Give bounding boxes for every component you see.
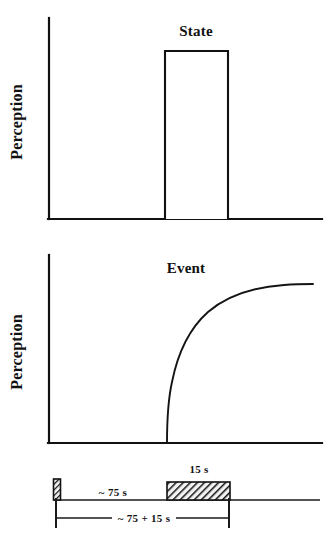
state-response-boxcar (165, 51, 228, 219)
event-panel: Event Perception (8, 255, 322, 443)
event-panel-title: Event (167, 260, 206, 276)
state-panel-y-axis-label: Perception (8, 84, 26, 159)
event-response-curve (167, 284, 313, 443)
total-duration-label: ~ 75 + 15 s (118, 512, 171, 524)
event-panel-y-axis-label: Perception (8, 314, 26, 389)
stimulus-duration-label: 15 s (189, 463, 209, 475)
stimulus-block (167, 482, 230, 500)
interval-duration-label: ~ 75 s (99, 486, 128, 498)
timing-panel: 15 s ~ 75 s ~ 75 + 15 s (54, 463, 321, 528)
scientific-figure: State Perception Event Perception 15 s (0, 0, 333, 552)
state-panel: State Perception (8, 18, 322, 219)
event-marker-block (54, 479, 61, 500)
state-panel-title: State (179, 23, 213, 39)
figure-container: State Perception Event Perception 15 s (0, 0, 333, 552)
